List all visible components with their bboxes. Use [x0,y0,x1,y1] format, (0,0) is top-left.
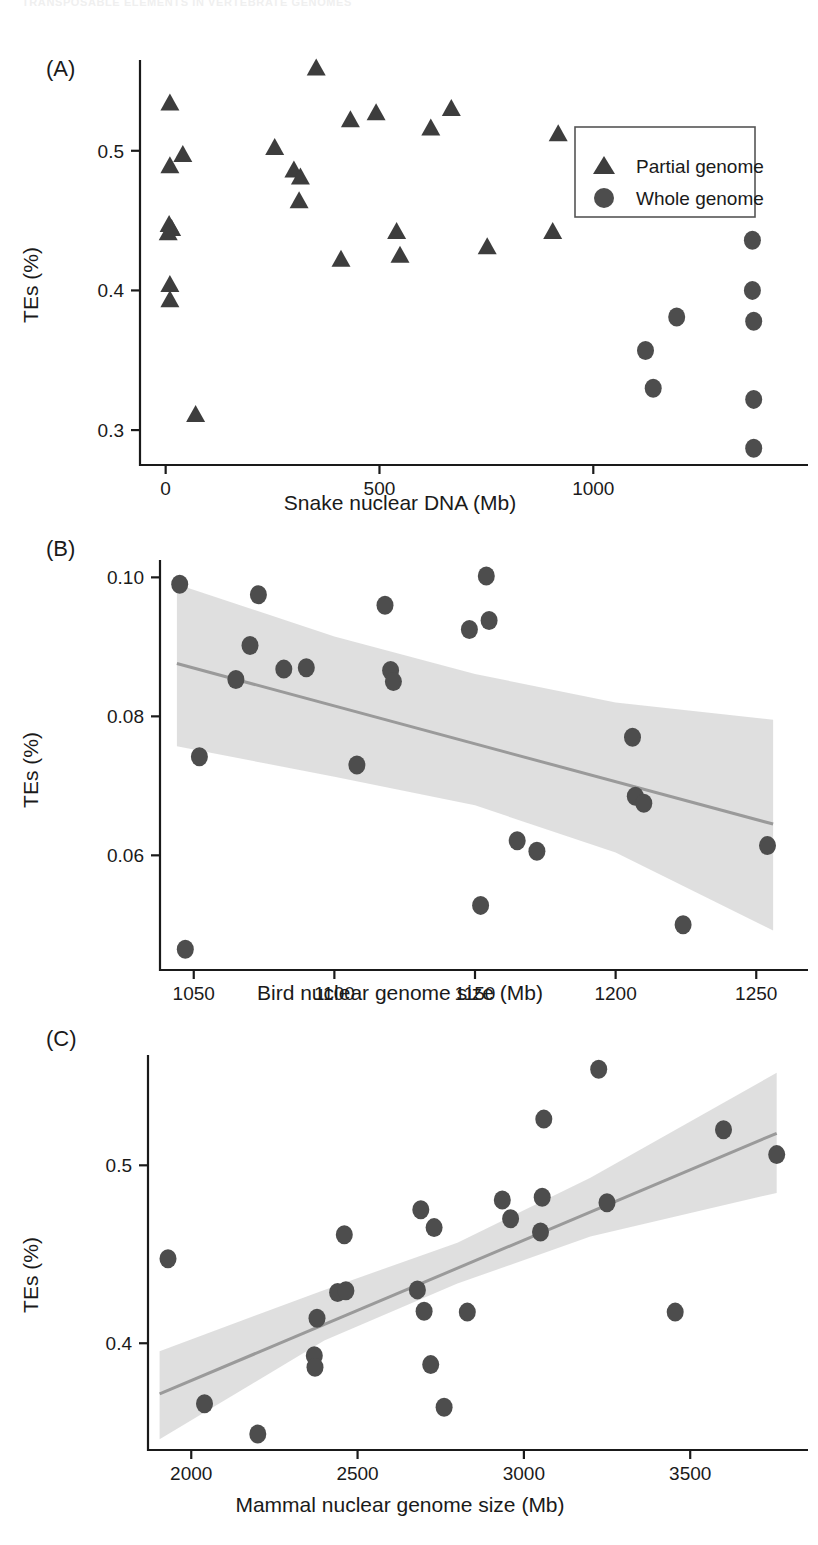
data-point-triangle [543,222,562,239]
data-point-circle [377,596,394,615]
data-point-circle [196,1394,213,1413]
panel-c-mammal: (C) Mammal nuclear genome size (Mb) TEs … [0,1010,818,1545]
data-point-circle [461,620,478,639]
data-point-circle [668,308,685,327]
panel-a-snake: (A) Snake nuclear DNA (Mb) TEs (%) 05001… [0,40,818,520]
data-point-circle [745,312,762,331]
data-point-circle [416,1302,433,1321]
data-point-triangle [391,246,410,263]
data-point-triangle [442,99,461,116]
axis-lines [140,60,808,465]
y-tick-label: 0.5 [98,141,124,162]
data-point-circle [422,1355,439,1374]
y-tick-label: 0.08 [107,706,144,727]
panel-b-xlabel: Bird nuclear genome size (Mb) [257,981,543,1004]
y-tick-label: 0.3 [98,420,124,441]
data-point-circle [472,896,489,915]
data-point-circle [635,794,652,813]
panel-a-ylabel: TEs (%) [19,247,42,323]
data-point-circle [348,756,365,775]
data-point-circle [478,567,495,586]
data-point-circle [509,831,526,850]
x-tick-label: 1000 [572,478,614,499]
data-point-circle [436,1398,453,1417]
x-tick-label: 500 [364,478,396,499]
panel-c-tag: (C) [46,1026,77,1051]
panel-b-bird: (B) Bird nuclear genome size (Mb) TEs (%… [0,520,818,1010]
figure-container: TRANSPOSABLE ELEMENTS IN VERTEBRATE GENO… [0,0,818,1545]
x-tick-label: 3500 [669,1463,711,1484]
regression-line [160,1133,777,1394]
data-point-triangle [265,138,284,155]
data-point-triangle [387,222,406,239]
x-tick-label: 3000 [503,1463,545,1484]
running-head: TRANSPOSABLE ELEMENTS IN VERTEBRATE GENO… [22,0,622,10]
data-point-circle [675,915,692,934]
data-point-circle [715,1120,732,1139]
data-point-circle [242,636,259,655]
data-point-circle [171,575,188,594]
panel-a-tag: (A) [46,56,75,81]
data-point-circle [744,231,761,250]
panel-b-ylabel: TEs (%) [19,732,42,808]
x-tick-label: 2000 [170,1463,212,1484]
data-point-circle [744,281,761,300]
data-point-triangle [290,191,309,208]
data-point-circle [250,585,267,604]
legend-item-whole-genome: Whole genome [636,188,764,209]
data-point-circle [481,611,498,630]
panel-c-ylabel: TEs (%) [19,1237,42,1313]
confidence-band [160,1073,777,1440]
data-point-circle [667,1303,684,1322]
data-point-circle [385,672,402,691]
data-point-triangle [160,290,179,307]
data-point-circle [409,1280,426,1299]
data-point-circle [298,658,315,677]
data-point-circle [275,660,292,679]
data-point-triangle [332,250,351,267]
data-point-triangle [549,124,568,141]
data-point-triangle [307,59,326,76]
data-point-triangle [478,237,497,254]
data-point-circle [535,1110,552,1129]
panel-a-svg: (A) Snake nuclear DNA (Mb) TEs (%) 05001… [0,40,818,520]
data-point-triangle [173,145,192,162]
x-tick-label: 1100 [314,983,355,1004]
data-point-circle [426,1218,443,1237]
y-tick-label: 0.5 [106,1155,132,1176]
panel-b-svg: (B) Bird nuclear genome size (Mb) TEs (%… [0,520,818,1010]
panel-c-svg: (C) Mammal nuclear genome size (Mb) TEs … [0,1010,818,1545]
data-point-circle [191,747,208,766]
data-point-circle [494,1191,511,1210]
data-point-circle [336,1225,353,1244]
data-point-circle [337,1281,354,1300]
x-tick-label: 1250 [735,983,777,1004]
x-tick-label: 1050 [173,983,215,1004]
panel-c-xlabel: Mammal nuclear genome size (Mb) [235,1493,564,1516]
x-tick-label: 1200 [594,983,636,1004]
data-point-circle [227,670,244,689]
data-point-circle [412,1200,429,1219]
circle-marker [594,188,614,208]
x-tick-label: 1150 [455,983,496,1004]
data-point-triangle [367,103,386,120]
y-tick-label: 0.4 [106,1333,133,1354]
data-point-circle [307,1358,324,1377]
panel-a-xlabel: Snake nuclear DNA (Mb) [284,491,516,514]
data-point-circle [745,439,762,458]
data-point-circle [502,1209,519,1228]
data-point-circle [599,1193,616,1212]
y-tick-label: 0.06 [107,845,144,866]
data-point-circle [177,940,194,959]
data-point-triangle [421,119,440,136]
data-point-circle [532,1223,549,1242]
data-point-circle [528,842,545,861]
data-point-circle [759,836,776,855]
panel-b-tag: (B) [46,536,75,561]
data-point-circle [590,1060,607,1079]
data-point-circle [249,1425,266,1444]
legend-item-partial-genome: Partial genome [636,156,764,177]
data-point-circle [160,1249,177,1268]
data-point-circle [745,390,762,409]
x-tick-label: 0 [160,478,171,499]
